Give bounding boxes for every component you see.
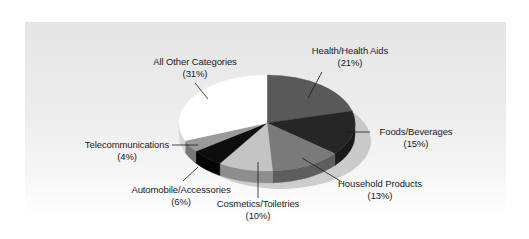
label-household: Household Products (13%)	[325, 178, 435, 202]
label-health-name: Health/Health Aids	[290, 45, 410, 57]
label-other-name: All Other Categories	[140, 56, 250, 68]
label-foods: Foods/Beverages (15%)	[366, 126, 466, 150]
label-automobile-pct: (6%)	[126, 196, 236, 208]
label-household-pct: (13%)	[325, 190, 435, 202]
label-health-pct: (21%)	[290, 57, 410, 69]
label-health: Health/Health Aids (21%)	[290, 45, 410, 69]
pie-top	[179, 75, 355, 171]
label-foods-pct: (15%)	[366, 138, 466, 150]
label-automobile-name: Automobile/Accessories	[126, 184, 236, 196]
label-household-name: Household Products	[325, 178, 435, 190]
label-other-pct: (31%)	[140, 68, 250, 80]
label-cosmetics-pct: (10%)	[208, 210, 308, 222]
label-telecom-name: Telecommunications	[82, 139, 172, 151]
label-other: All Other Categories (31%)	[140, 56, 250, 80]
label-foods-name: Foods/Beverages	[366, 126, 466, 138]
label-telecom: Telecommunications (4%)	[82, 139, 172, 163]
label-automobile: Automobile/Accessories (6%)	[126, 184, 236, 208]
label-telecom-pct: (4%)	[82, 151, 172, 163]
